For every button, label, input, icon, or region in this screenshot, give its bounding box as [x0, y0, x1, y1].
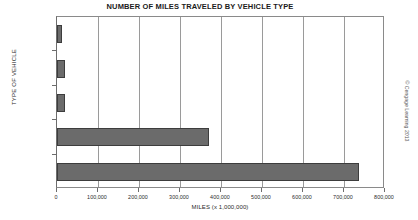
bar-row — [57, 51, 383, 85]
x-tick — [138, 188, 139, 192]
x-tick — [97, 188, 98, 192]
bars-layer — [57, 17, 383, 187]
x-tick-label: 100,000 — [87, 194, 107, 200]
x-tick — [302, 188, 303, 192]
x-tick — [56, 188, 57, 192]
bar-row — [57, 17, 383, 51]
chart-title: NUMBER OF MILES TRAVELED BY VEHICLE TYPE — [0, 2, 400, 11]
bar-row — [57, 86, 383, 120]
y-axis-title: TYPE OF VEHICLE — [11, 17, 17, 137]
bar-row — [57, 120, 383, 154]
bar-train[interactable] — [57, 60, 65, 78]
x-tick — [179, 188, 180, 192]
x-tick-label: 200,000 — [128, 194, 148, 200]
x-tick-label: 400,000 — [210, 194, 230, 200]
bar-bus[interactable] — [57, 94, 65, 112]
chart-figure: NUMBER OF MILES TRAVELED BY VEHICLE TYPE… — [0, 0, 418, 220]
bar-personal[interactable] — [57, 163, 359, 181]
x-tick-label: 700,000 — [333, 194, 353, 200]
bar-row — [57, 155, 383, 189]
x-tick — [384, 188, 385, 192]
x-tick-label: 500,000 — [251, 194, 271, 200]
bar-ship[interactable] — [57, 25, 62, 43]
y-tick — [52, 119, 56, 120]
x-tick-label: 300,000 — [169, 194, 189, 200]
y-tick — [52, 85, 56, 86]
x-tick-label: 600,000 — [292, 194, 312, 200]
y-tick — [52, 50, 56, 51]
x-axis-title: MILES (x 1,000,000) — [56, 204, 384, 210]
x-tick-label: 800,000 — [374, 194, 394, 200]
x-tick — [261, 188, 262, 192]
plot-area — [56, 16, 384, 188]
x-tick — [220, 188, 221, 192]
x-tick-label: 0 — [54, 194, 57, 200]
copyright-credit: © Cengage Learning 2013 — [404, 36, 410, 186]
y-tick — [52, 154, 56, 155]
bar-airplane[interactable] — [57, 128, 209, 146]
x-tick — [343, 188, 344, 192]
